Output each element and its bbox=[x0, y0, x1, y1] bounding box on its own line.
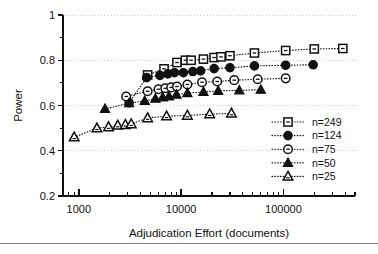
data-point-n-75-10 bbox=[253, 75, 262, 84]
legend-marker-n-249 bbox=[284, 118, 292, 126]
data-point-n-124-8 bbox=[210, 64, 218, 72]
data-point-n-75-8 bbox=[213, 77, 222, 86]
y-tick-label-0.4: 0.4 bbox=[40, 145, 55, 157]
data-point-n-75-9 bbox=[230, 76, 239, 85]
figure-container: 0.20.40.60.81100010000100000 n=249n=124n… bbox=[0, 0, 378, 254]
data-point-n-75-1 bbox=[143, 87, 152, 96]
x-axis-title: Adjudication Effort (documents) bbox=[129, 227, 289, 239]
y-axis-title: Power bbox=[12, 89, 24, 122]
data-point-n-249-2 bbox=[173, 58, 181, 66]
data-point-n-249-8 bbox=[226, 52, 234, 60]
data-point-n-249-10 bbox=[282, 46, 290, 54]
data-point-n-124-7 bbox=[196, 67, 204, 75]
data-point-n-124-10 bbox=[250, 62, 258, 70]
data-point-n-249-4 bbox=[187, 56, 195, 64]
legend-label-n-249: n=249 bbox=[312, 116, 342, 128]
data-point-n-124-5 bbox=[179, 68, 187, 76]
data-point-n-124-11 bbox=[281, 61, 289, 69]
data-point-n-249-5 bbox=[199, 55, 207, 63]
data-point-n-124-6 bbox=[189, 67, 197, 75]
legend-marker-n-124 bbox=[284, 131, 292, 139]
y-tick-label-0.6: 0.6 bbox=[40, 100, 55, 112]
data-point-n-124-9 bbox=[226, 64, 234, 72]
power-vs-adjudication-effort-chart: 0.20.40.60.81100010000100000 n=249n=124n… bbox=[0, 0, 378, 254]
y-tick-label-0.2: 0.2 bbox=[40, 190, 55, 202]
legend-marker-n-75 bbox=[284, 145, 293, 154]
data-point-n-124-12 bbox=[309, 61, 317, 69]
data-point-n-124-4 bbox=[170, 68, 178, 76]
data-point-n-249-11 bbox=[310, 45, 318, 53]
x-tick-label-100000: 100000 bbox=[265, 203, 302, 215]
legend-label-n-25: n=25 bbox=[312, 170, 336, 182]
data-point-n-124-2 bbox=[156, 71, 164, 79]
data-point-n-124-1 bbox=[142, 73, 150, 81]
y-tick-label-1: 1 bbox=[49, 9, 55, 21]
legend-label-n-50: n=50 bbox=[312, 157, 336, 169]
data-point-n-249-12 bbox=[339, 44, 347, 52]
legend-label-n-75: n=75 bbox=[312, 143, 336, 155]
data-point-n-75-11 bbox=[281, 74, 290, 83]
x-tick-label-1000: 1000 bbox=[67, 203, 91, 215]
data-point-n-249-7 bbox=[217, 53, 225, 61]
x-tick-label-10000: 10000 bbox=[166, 203, 197, 215]
legend-label-n-124: n=124 bbox=[312, 129, 342, 141]
data-point-n-249-9 bbox=[250, 49, 258, 57]
data-point-n-75-7 bbox=[198, 78, 207, 87]
y-tick-label-0.8: 0.8 bbox=[40, 54, 55, 66]
footer-rule bbox=[0, 243, 378, 244]
